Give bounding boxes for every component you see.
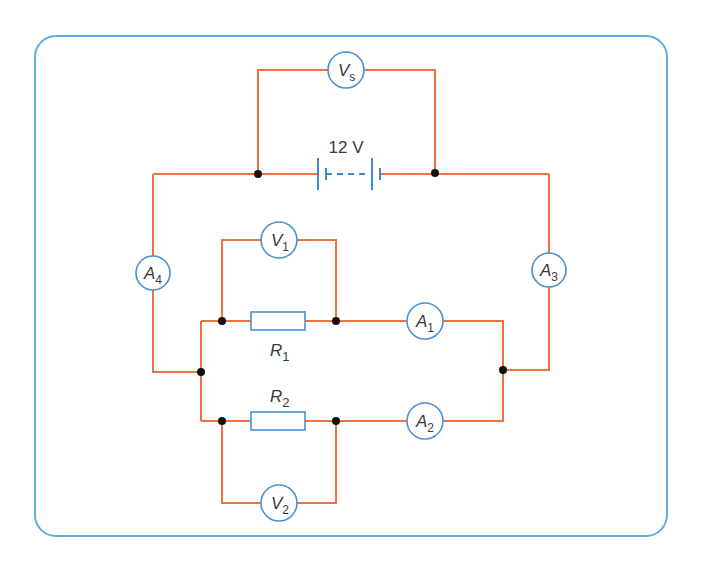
- r1-symbol: R: [270, 341, 282, 360]
- ammeter-a1: A1: [407, 303, 443, 339]
- a3-subscript: 3: [551, 270, 558, 284]
- a1-symbol: A: [415, 312, 427, 331]
- junction-dots: [197, 169, 507, 425]
- r1-subscript: 1: [282, 349, 289, 364]
- voltmeter-v1: V1: [261, 222, 297, 258]
- ammeter-a3: A3: [532, 253, 566, 287]
- resistor-r2: R2: [251, 387, 305, 430]
- battery-12v: 12 V: [318, 138, 380, 190]
- vs-subscript: s: [349, 70, 355, 84]
- v2-subscript: 2: [282, 503, 289, 517]
- voltmeter-vs: Vs: [328, 52, 364, 88]
- circuit-diagram: 12 V R1 R2 Vs V1 V2 A1 A2 A3 A4: [0, 0, 702, 571]
- ammeter-a2: A2: [407, 403, 443, 439]
- a1-subscript: 1: [427, 321, 434, 335]
- ammeter-a4: A4: [136, 256, 170, 290]
- a2-subscript: 2: [427, 421, 434, 435]
- a3-symbol: A: [539, 261, 551, 280]
- voltmeter-v2: V2: [261, 485, 297, 521]
- supply-voltage-label: 12 V: [329, 138, 365, 157]
- r2-subscript: 2: [282, 395, 289, 410]
- resistor-r1: R1: [251, 312, 305, 364]
- a4-symbol: A: [143, 264, 155, 283]
- r2-symbol: R: [270, 387, 282, 406]
- svg-text:R2: R2: [270, 387, 290, 410]
- a4-subscript: 4: [155, 273, 162, 287]
- wires: [153, 70, 549, 503]
- a2-symbol: A: [415, 412, 427, 431]
- svg-text:R1: R1: [270, 341, 290, 364]
- v1-subscript: 1: [282, 240, 289, 254]
